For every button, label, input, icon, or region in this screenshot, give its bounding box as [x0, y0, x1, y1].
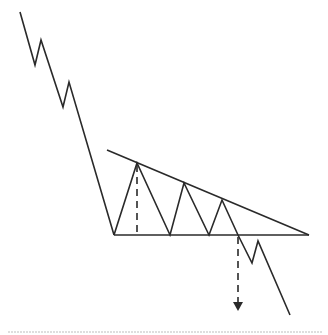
arrow-down-icon [233, 302, 243, 311]
diagram-svg [0, 0, 328, 335]
triangle-swing-line [114, 163, 238, 235]
descending-triangle-diagram [0, 0, 328, 335]
breakdown-line [238, 235, 290, 315]
prior-downtrend-line [20, 12, 114, 235]
